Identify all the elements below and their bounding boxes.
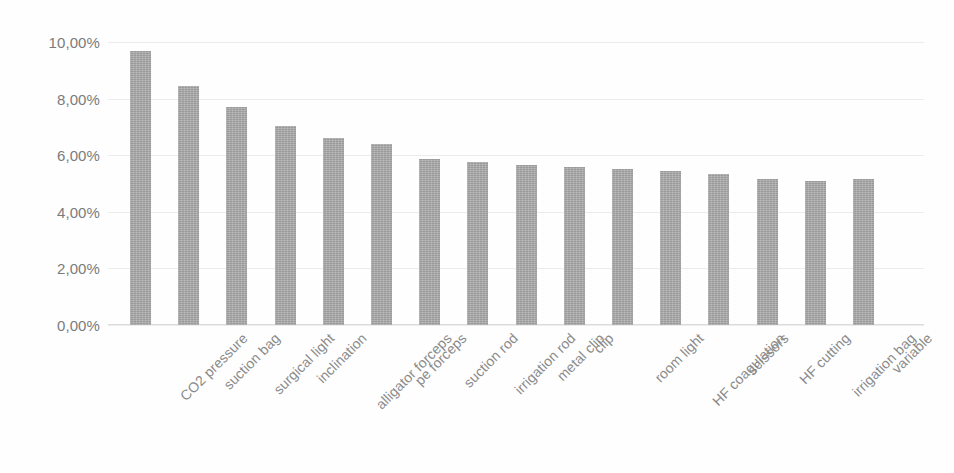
y-tick-label: 2,00% xyxy=(4,260,100,277)
bar xyxy=(226,107,247,325)
x-tick-label: suction rod xyxy=(460,330,521,391)
y-tick-label: 0,00% xyxy=(4,317,100,334)
bar xyxy=(275,126,296,326)
bar xyxy=(516,165,537,325)
y-tick-label: 4,00% xyxy=(4,203,100,220)
bar xyxy=(419,159,440,325)
bar xyxy=(467,162,488,325)
bar xyxy=(130,51,151,326)
gridline xyxy=(108,99,924,100)
bar xyxy=(757,179,778,325)
bar xyxy=(708,174,729,325)
x-tick-label: HF cutting xyxy=(796,330,853,387)
bar xyxy=(612,169,633,325)
y-tick-label: 8,00% xyxy=(4,90,100,107)
gridline xyxy=(108,325,924,326)
gridline xyxy=(108,42,924,43)
bar xyxy=(178,86,199,325)
plot-area xyxy=(108,42,924,325)
bar xyxy=(371,144,392,325)
bar-chart: 10,00%8,00%6,00%4,00%2,00%0,00% CO2 pres… xyxy=(0,0,954,473)
bar xyxy=(564,167,585,325)
y-tick-label: 10,00% xyxy=(4,34,100,51)
x-tick-label: room light xyxy=(651,330,706,385)
y-tick-label: 6,00% xyxy=(4,147,100,164)
bar xyxy=(805,181,826,325)
x-axis: CO2 pressuresuction bagsurgical lightinc… xyxy=(108,330,954,473)
bar xyxy=(853,179,874,325)
y-axis: 10,00%8,00%6,00%4,00%2,00%0,00% xyxy=(0,42,100,325)
bar xyxy=(660,171,681,325)
x-tick-label: alligator forceps xyxy=(373,330,455,412)
bar xyxy=(323,138,344,325)
